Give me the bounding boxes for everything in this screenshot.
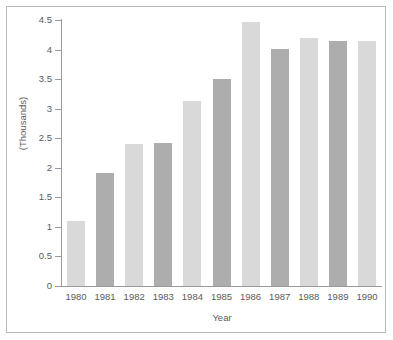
bar-1984[interactable]	[183, 101, 201, 286]
y-tick-mark	[55, 138, 61, 139]
y-tick-label: 0	[10, 281, 52, 291]
y-tick-mark	[55, 256, 61, 257]
y-tick-0: 0	[0, 286, 61, 287]
bar-1986[interactable]	[242, 22, 260, 286]
x-axis-line	[61, 286, 382, 287]
bar-1985[interactable]	[213, 79, 231, 286]
plot-area	[62, 20, 382, 286]
y-tick-label: 4.5	[10, 15, 52, 25]
x-axis-title: Year	[62, 312, 382, 323]
y-tick-0.5: 0.5	[0, 256, 61, 257]
bar-1983[interactable]	[154, 143, 172, 286]
y-tick-label: 1	[10, 222, 52, 232]
y-tick-mark	[55, 79, 61, 80]
y-tick-2.5: 2.5	[0, 138, 61, 139]
y-tick-4.5: 4.5	[0, 20, 61, 21]
bar-chart-figure: 00.511.522.533.544.5 (Thousands) 1980198…	[0, 0, 393, 340]
y-axis-title: (Thousands)	[17, 76, 28, 172]
x-tick-label-1990: 1990	[347, 292, 387, 302]
y-tick-mark	[55, 168, 61, 169]
y-tick-3.5: 3.5	[0, 79, 61, 80]
bar-1981[interactable]	[96, 173, 114, 286]
y-tick-1: 1	[0, 227, 61, 228]
y-tick-mark	[55, 50, 61, 51]
y-tick-label: 0.5	[10, 251, 52, 261]
y-tick-mark	[55, 20, 61, 21]
bar-1982[interactable]	[125, 144, 143, 286]
y-tick-mark	[55, 286, 61, 287]
bar-1980[interactable]	[67, 221, 85, 286]
y-tick-mark	[55, 197, 61, 198]
y-tick-2: 2	[0, 168, 61, 169]
y-tick-4: 4	[0, 50, 61, 51]
y-tick-mark	[55, 227, 61, 228]
bar-1989[interactable]	[329, 41, 347, 286]
y-tick-1.5: 1.5	[0, 197, 61, 198]
bar-1987[interactable]	[271, 49, 289, 286]
bar-1988[interactable]	[300, 38, 318, 286]
y-tick-label: 1.5	[10, 192, 52, 202]
y-tick-mark	[55, 109, 61, 110]
y-tick-label: 4	[10, 45, 52, 55]
bar-1990[interactable]	[358, 41, 376, 286]
y-tick-3: 3	[0, 109, 61, 110]
